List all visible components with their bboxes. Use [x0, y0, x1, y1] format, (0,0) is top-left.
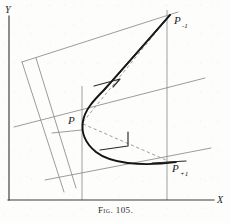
figure-caption: Fig. 105.	[0, 205, 231, 215]
parabolic-curve	[83, 15, 176, 164]
grid-line-top	[22, 12, 178, 62]
label-p-center: P	[67, 114, 75, 126]
grid-line-middle	[14, 78, 205, 127]
label-p-minus-1: P	[173, 14, 181, 26]
chord-solid-upper	[104, 15, 170, 90]
chord-p-to-p-plus-1	[83, 124, 166, 160]
dashed-chords	[83, 20, 166, 160]
tangent-segments	[94, 79, 186, 163]
label-p-plus-1: P	[171, 162, 179, 174]
y-axis-label: Y	[5, 4, 12, 15]
tangent-segment-lower	[100, 132, 128, 150]
x-axis-label: X	[216, 194, 224, 205]
figure-105: P -1 P P +1 Y X Fig. 105.	[0, 0, 231, 223]
grid-connector-left	[52, 130, 82, 133]
point-labels: P -1 P P +1	[67, 14, 188, 178]
label-p-minus-1-subscript: -1	[182, 22, 188, 30]
oblique-grid	[14, 12, 211, 192]
label-p-plus-1-subscript: +1	[180, 170, 188, 178]
figure-drawing: P -1 P P +1 Y X	[0, 0, 231, 223]
